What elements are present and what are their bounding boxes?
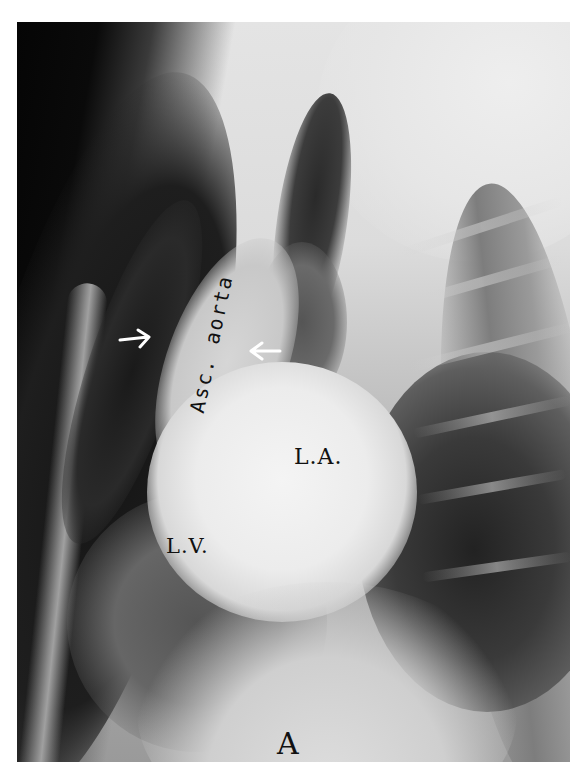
left-atrium-label: L.A. xyxy=(294,444,342,469)
arrow-right-icon xyxy=(118,328,152,350)
arrow-left-icon xyxy=(248,340,282,362)
chest-xray-image xyxy=(17,22,570,762)
panel-label: A xyxy=(277,726,300,761)
left-ventricle-label: L.V. xyxy=(166,534,209,558)
